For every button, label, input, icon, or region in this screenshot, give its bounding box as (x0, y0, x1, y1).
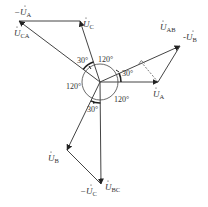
label-minus-UA: −UA (14, 7, 32, 18)
angle-label-120-left: 120° (66, 82, 81, 91)
label-UBC: UBC (105, 182, 120, 193)
angle-arc-30-bottom (91, 101, 101, 103)
phasor-UB (67, 82, 100, 150)
phasor-UAB (100, 46, 180, 82)
angle-tick-1 (116, 70, 119, 72)
angle-label-30-top: 30° (77, 56, 88, 65)
perpendicular-dashed-line (142, 63, 158, 82)
phasor-UCA (19, 21, 100, 82)
angle-label-120-top: 120° (98, 55, 113, 64)
label-minus-UB: -UB (183, 32, 198, 43)
label-UAB: UAB (160, 22, 176, 33)
label-minus-UC: −UC (80, 186, 97, 197)
angle-arc-30-right (119, 73, 121, 82)
label-UC: UC (83, 19, 94, 30)
label-UB: UB (48, 153, 60, 164)
phasor-UC (80, 21, 100, 82)
angle-label-30-right: 30° (122, 69, 133, 78)
phasor-UBC (100, 82, 101, 184)
label-UA: UA (153, 89, 165, 100)
label-UCA: UCA (14, 28, 30, 39)
phasor-diagram: UA UAB -UB UC −UA UCA UB −UC UBC 30° 120… (0, 0, 208, 207)
angle-label-30-bottom: 30° (87, 105, 98, 114)
phasor-minus-UC (67, 150, 101, 184)
angle-label-120-right: 120° (114, 95, 129, 104)
